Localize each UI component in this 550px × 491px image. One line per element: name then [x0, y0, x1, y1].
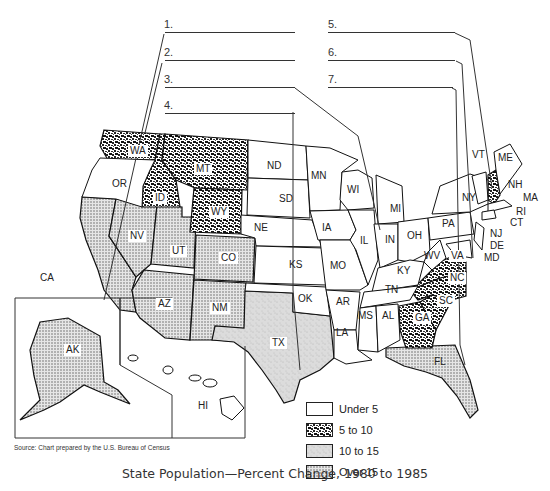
label-de: DE	[488, 240, 506, 252]
us-map	[0, 0, 550, 491]
blank-label-5: 5.	[328, 18, 337, 30]
label-mt: MT	[194, 163, 212, 175]
blank-line-2[interactable]	[165, 60, 295, 61]
blank-label-7: 7.	[328, 73, 337, 85]
state-ak	[20, 318, 130, 420]
label-ut: UT	[170, 245, 187, 257]
label-hi: HI	[196, 400, 210, 412]
legend-label: Under 5	[339, 403, 378, 415]
label-ma: MA	[521, 192, 540, 204]
label-ca: CA	[38, 272, 56, 284]
label-fl: FL	[432, 356, 448, 368]
label-ct: CT	[508, 217, 525, 229]
blank-label-2: 2.	[164, 46, 173, 58]
map-title: State Population—Percent Change, 1980 to…	[0, 466, 550, 481]
label-or: OR	[110, 178, 129, 190]
blank-label-1: 1.	[164, 18, 173, 30]
blank-line-6[interactable]	[328, 60, 455, 61]
label-ok: OK	[296, 293, 314, 305]
legend-swatch-under-5	[306, 402, 333, 416]
label-ks: KS	[287, 259, 304, 271]
label-co: CO	[219, 252, 238, 264]
label-la: LA	[334, 327, 350, 339]
state-hi	[128, 355, 244, 420]
label-mi: MI	[388, 203, 403, 215]
source-note: Source: Chart prepared by the U.S. Burea…	[14, 444, 170, 451]
label-az: AZ	[156, 298, 173, 310]
label-oh: OH	[405, 230, 424, 242]
label-wi: WI	[345, 184, 361, 196]
label-il: IL	[358, 235, 370, 247]
legend-item-10-to-15: 10 to 15	[306, 440, 379, 461]
legend-item-5-to-10: 5 to 10	[306, 419, 379, 440]
legend-item-under-5: Under 5	[306, 398, 379, 419]
state-ut	[151, 205, 196, 268]
label-pa: PA	[440, 218, 457, 230]
blank-line-3[interactable]	[165, 87, 295, 88]
blank-line-1[interactable]	[165, 32, 295, 33]
blank-label-3: 3.	[164, 73, 173, 85]
label-nc: NC	[448, 272, 466, 284]
label-vt: VT	[470, 149, 487, 161]
label-wv: WV	[422, 250, 442, 262]
label-ak: AK	[64, 344, 81, 356]
label-wy: WY	[209, 206, 229, 218]
label-al: AL	[380, 310, 396, 322]
label-ky: KY	[395, 265, 412, 277]
legend-swatch-5-to-10	[306, 423, 333, 437]
label-me: ME	[496, 152, 515, 164]
label-mo: MO	[328, 260, 348, 272]
label-tx: TX	[270, 337, 287, 349]
blank-line-7[interactable]	[328, 87, 453, 88]
legend-label: 10 to 15	[339, 445, 379, 457]
state-nj	[474, 222, 484, 250]
label-wa: WA	[128, 145, 148, 157]
label-ga: GA	[413, 312, 431, 324]
label-sd: SD	[277, 193, 295, 205]
label-in: IN	[383, 234, 397, 246]
label-ms: MS	[356, 310, 375, 322]
state-ct	[482, 210, 496, 220]
label-md: MD	[482, 252, 502, 264]
blank-line-4[interactable]	[165, 113, 295, 114]
label-nm: NM	[210, 302, 230, 314]
label-nv: NV	[128, 230, 146, 242]
blank-line-5[interactable]	[328, 32, 455, 33]
label-ar: AR	[334, 296, 352, 308]
label-nj: NJ	[488, 228, 504, 240]
state-mi	[376, 175, 404, 224]
label-ne: NE	[252, 222, 270, 234]
legend-label: 5 to 10	[339, 424, 373, 436]
label-id: ID	[153, 192, 167, 204]
label-nd: ND	[265, 160, 283, 172]
legend-swatch-10-to-15	[306, 444, 333, 458]
blank-label-4: 4.	[164, 99, 173, 111]
label-mn: MN	[309, 170, 329, 182]
label-va: VA	[449, 250, 466, 262]
label-nh: NH	[506, 179, 524, 191]
label-ia: IA	[320, 222, 333, 234]
label-sc: SC	[437, 295, 455, 307]
label-tn: TN	[383, 284, 400, 296]
blank-label-6: 6.	[328, 46, 337, 58]
label-ny: NY	[460, 192, 478, 204]
